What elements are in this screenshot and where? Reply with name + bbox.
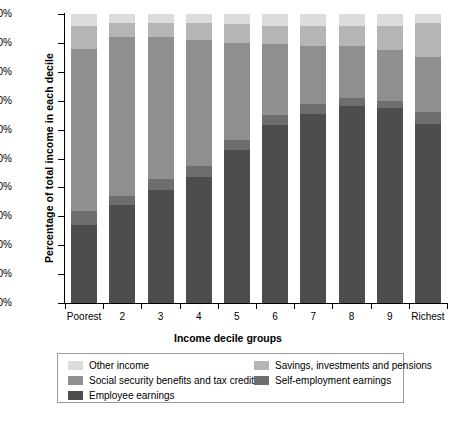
legend-swatch — [68, 376, 83, 385]
bar-segment — [339, 46, 365, 98]
bar-segment — [186, 177, 212, 303]
bar-segment — [377, 101, 403, 108]
x-tick — [294, 304, 295, 309]
bar-segment — [148, 190, 174, 303]
y-tick-label: 20% — [0, 239, 12, 250]
bar-2 — [109, 14, 135, 303]
bar-segment — [300, 14, 326, 26]
x-tick — [180, 304, 181, 309]
bar-segment — [186, 14, 212, 23]
legend-swatch — [254, 376, 269, 385]
bar-segment — [415, 124, 441, 303]
bar-6 — [262, 14, 288, 303]
bar-segment — [300, 46, 326, 104]
y-tick-label: 10% — [0, 268, 12, 279]
x-tick — [447, 304, 448, 309]
bar-segment — [262, 14, 288, 26]
y-tick-label: 100% — [0, 8, 12, 19]
bar-segment — [148, 23, 174, 37]
x-tick — [256, 304, 257, 309]
legend-swatch — [254, 361, 269, 370]
legend-item: Savings, investments and pensions — [254, 360, 432, 371]
bar-segment — [262, 44, 288, 115]
legend-item: Social security benefits and tax credits — [68, 375, 259, 386]
y-tick — [58, 101, 65, 102]
bar-segment — [300, 114, 326, 303]
bar-segment — [377, 108, 403, 303]
bar-segment — [71, 225, 97, 303]
legend-label: Savings, investments and pensions — [275, 360, 432, 371]
bar-segment — [148, 14, 174, 23]
y-tick — [58, 274, 65, 275]
bar-segment — [415, 23, 441, 58]
bar-4 — [186, 14, 212, 303]
bar-segment — [377, 50, 403, 101]
y-tick-label: 60% — [0, 124, 12, 135]
legend-label: Self-employment earnings — [275, 375, 391, 386]
legend-item: Employee earnings — [68, 390, 175, 401]
x-tick — [65, 304, 66, 309]
y-tick — [58, 14, 65, 15]
legend-label: Employee earnings — [89, 390, 175, 401]
bar-segment — [377, 14, 403, 26]
bar-segment — [262, 125, 288, 303]
legend-label: Social security benefits and tax credits — [89, 375, 259, 386]
legend-item: Self-employment earnings — [254, 375, 391, 386]
bar-segment — [148, 37, 174, 179]
bar-segment — [109, 205, 135, 303]
y-tick-label: 30% — [0, 210, 12, 221]
y-tick-label: 80% — [0, 66, 12, 77]
x-tick — [218, 304, 219, 309]
y-tick-label: 0% — [0, 297, 12, 308]
bar-3 — [148, 14, 174, 303]
y-tick — [58, 303, 65, 304]
bar-segment — [415, 14, 441, 23]
bar-segment — [262, 115, 288, 125]
bar-5 — [224, 14, 250, 303]
x-tick — [332, 304, 333, 309]
y-tick — [58, 187, 65, 188]
bar-9 — [377, 14, 403, 303]
bar-segment — [224, 43, 250, 140]
bar-7 — [300, 14, 326, 303]
legend-swatch — [68, 391, 83, 400]
bar-segment — [415, 112, 441, 124]
bar-segment — [186, 166, 212, 178]
y-tick-label: 40% — [0, 181, 12, 192]
bar-segment — [300, 26, 326, 46]
bar-segment — [224, 150, 250, 303]
bar-segment — [262, 26, 288, 45]
bar-segment — [300, 104, 326, 114]
bar-segment — [224, 14, 250, 24]
y-tick — [58, 43, 65, 44]
legend-swatch — [68, 361, 83, 370]
bar-segment — [148, 179, 174, 191]
chart-legend: Other incomeSavings, investments and pen… — [57, 353, 404, 403]
legend-label: Other income — [89, 360, 149, 371]
bar-segment — [71, 49, 97, 211]
bar-segment — [339, 26, 365, 46]
bar-segment — [339, 14, 365, 26]
bar-segment — [109, 37, 135, 196]
x-tick — [103, 304, 104, 309]
bar-8 — [339, 14, 365, 303]
y-tick — [58, 159, 65, 160]
bar-segment — [224, 24, 250, 43]
bar-segment — [186, 40, 212, 166]
y-tick — [58, 130, 65, 131]
y-tick — [58, 216, 65, 217]
x-axis-title: Income decile groups — [0, 332, 456, 344]
y-tick-label: 90% — [0, 37, 12, 48]
bar-segment — [71, 26, 97, 49]
legend-item: Other income — [68, 360, 149, 371]
stacked-bar-chart: Percentage of total income in each decil… — [0, 0, 456, 422]
bar-segment — [71, 14, 97, 26]
bar-segment — [109, 196, 135, 205]
bar-segment — [109, 14, 135, 23]
x-tick — [409, 304, 410, 309]
y-axis-title: Percentage of total income in each decil… — [43, 13, 55, 303]
plot-area — [65, 14, 447, 303]
y-tick — [58, 245, 65, 246]
bar-segment — [415, 57, 441, 112]
bar-segment — [224, 140, 250, 150]
